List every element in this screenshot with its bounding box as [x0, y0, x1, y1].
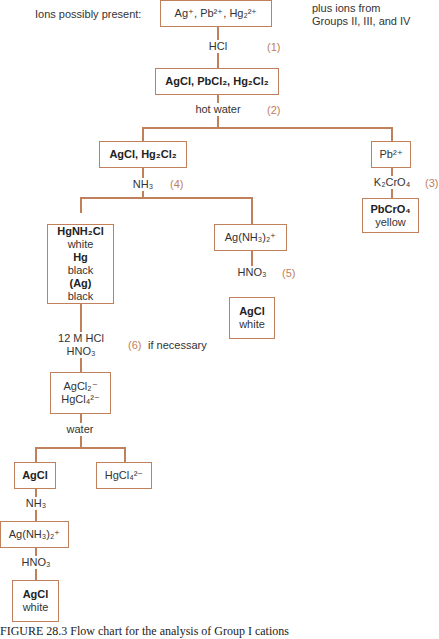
reagent-k2cro4: K₂CrO₄ — [370, 176, 414, 189]
node-agcl-2: AgCl — [14, 462, 56, 489]
reagent-hno3: HNO₃ — [233, 266, 271, 279]
node-pbcro4: PbCrO₄yellow — [362, 198, 419, 233]
node-pb: Pb²⁺ — [371, 141, 411, 168]
step-1: (1) — [267, 41, 280, 53]
reagent-nh3: NH₃ — [125, 178, 161, 191]
reagent-hcl: HCl — [200, 40, 236, 53]
node-hg-residue: HgNH₂Clwhite Hgblack (Ag)black — [47, 224, 114, 304]
if-necessary-note: if necessary — [148, 339, 207, 352]
node-precip1: AgCl, PbCl₂, Hg₂Cl₂ — [155, 68, 279, 95]
node-start: Ag⁺, Pb²⁺, Hg₂²⁺ — [160, 0, 272, 27]
node-agcl-white-2: AgClwhite — [12, 580, 59, 622]
step-6: (6) — [128, 339, 141, 351]
figure-caption: FIGURE 28.3 Flow chart for the analysis … — [0, 624, 289, 639]
reagent-hot-water: hot water — [190, 103, 246, 116]
node-agcl-white: AgClwhite — [229, 297, 275, 339]
reagent-nh3-2: NH₃ — [20, 497, 52, 510]
step-4: (4) — [170, 178, 183, 190]
reagent-water: water — [60, 423, 100, 436]
reagent-12m-hcl: 12 M HCl — [56, 332, 106, 345]
step-5: (5) — [282, 267, 295, 279]
step-3: (3) — [425, 177, 438, 189]
reagent-hno3-3: HNO₃ — [16, 556, 56, 569]
node-agcl-hg2cl2: AgCl, Hg₂Cl₂ — [99, 141, 187, 168]
groups-note-2: Groups II, III, and IV — [312, 15, 410, 28]
node-ag-amine: Ag(NH₃)₂⁺ — [214, 224, 287, 251]
node-ag-amine-2: Ag(NH₃)₂⁺ — [0, 521, 69, 548]
reagent-hno3-2: HNO₃ — [56, 345, 106, 358]
ions-present-label: Ions possibly present: — [35, 8, 141, 21]
node-complex: AgCl₂⁻HgCl₄²⁻ — [50, 372, 111, 414]
step-2: (2) — [267, 104, 280, 116]
node-hgcl4: HgCl₄²⁻ — [96, 462, 152, 489]
groups-note-1: plus ions from — [312, 2, 380, 15]
